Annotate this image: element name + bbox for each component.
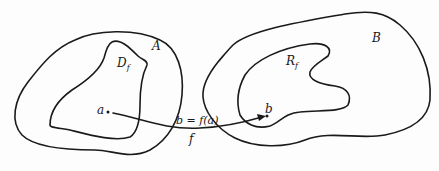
set-a-label: A xyxy=(152,40,161,52)
range-subset-label-text: R xyxy=(286,54,295,68)
point-b-label: b xyxy=(265,103,273,115)
range-subset-subscript: f xyxy=(295,61,298,70)
domain-subset-label-text: D xyxy=(117,56,127,70)
set-b-label: B xyxy=(372,32,381,44)
set-b-boundary xyxy=(203,12,430,146)
set-b-label-text: B xyxy=(372,31,381,45)
set-a-label-text: A xyxy=(152,39,161,53)
domain-subset-label: Df xyxy=(117,57,130,72)
diagram-shapes xyxy=(0,0,439,171)
mapping-equation: b = f(a) xyxy=(176,115,218,126)
point-a-label: a xyxy=(97,104,104,116)
function-label: f xyxy=(189,133,193,145)
domain-subset-subscript: f xyxy=(127,63,130,72)
range-subset-label: Rf xyxy=(286,55,298,70)
function-mapping-diagram: A Df B Rf a b b = f(a) f xyxy=(0,0,439,171)
point-a-dot xyxy=(107,111,110,114)
domain-subset-boundary xyxy=(50,41,147,139)
